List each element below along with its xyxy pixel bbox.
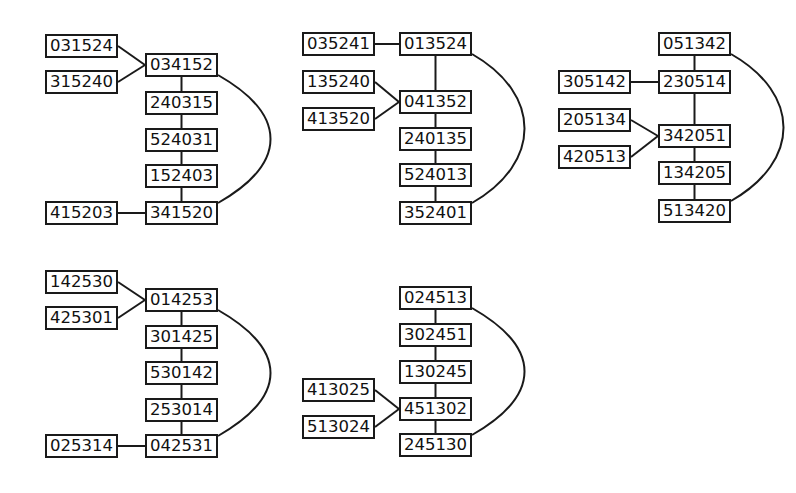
leaf-node: 025314 <box>45 434 118 458</box>
leaf-node: 413025 <box>302 378 375 402</box>
leaf-node: 205134 <box>558 108 631 132</box>
chain-node: 253014 <box>145 398 218 422</box>
chain-node: 034152 <box>145 53 218 77</box>
leaf-node: 135240 <box>302 70 375 94</box>
leaf-node: 305142 <box>558 70 631 94</box>
chain-node: 352401 <box>399 201 472 225</box>
chain-node: 524013 <box>399 163 472 187</box>
chain-node: 013524 <box>399 32 472 56</box>
leaf-node: 420513 <box>558 145 631 169</box>
chain-node: 530142 <box>145 361 218 385</box>
chain-node: 051342 <box>658 32 731 56</box>
chain-node: 042531 <box>145 434 218 458</box>
chain-node: 301425 <box>145 325 218 349</box>
chain-node: 240135 <box>399 127 472 151</box>
chain-node: 041352 <box>399 90 472 114</box>
chain-node: 341520 <box>145 201 218 225</box>
leaf-node: 413520 <box>302 107 375 131</box>
chain-node: 524031 <box>145 128 218 152</box>
chain-node: 342051 <box>658 124 731 148</box>
chain-node: 240315 <box>145 91 218 115</box>
leaf-node: 031524 <box>45 34 118 58</box>
chain-node: 451302 <box>399 397 472 421</box>
leaf-node: 035241 <box>302 32 375 56</box>
chain-node: 230514 <box>658 70 731 94</box>
chain-node: 513420 <box>658 199 731 223</box>
chain-node: 024513 <box>399 286 472 310</box>
chain-node: 302451 <box>399 323 472 347</box>
leaf-node: 142530 <box>45 270 118 294</box>
chain-node: 152403 <box>145 164 218 188</box>
permutation-graph-canvas: 0341522403155240311524033415200315243152… <box>0 0 796 493</box>
leaf-node: 425301 <box>45 306 118 330</box>
leaf-node: 513024 <box>302 415 375 439</box>
chain-node: 014253 <box>145 288 218 312</box>
leaf-node: 415203 <box>45 201 118 225</box>
chain-node: 245130 <box>399 433 472 457</box>
leaf-node: 315240 <box>45 70 118 94</box>
chain-node: 134205 <box>658 161 731 185</box>
chain-node: 130245 <box>399 360 472 384</box>
